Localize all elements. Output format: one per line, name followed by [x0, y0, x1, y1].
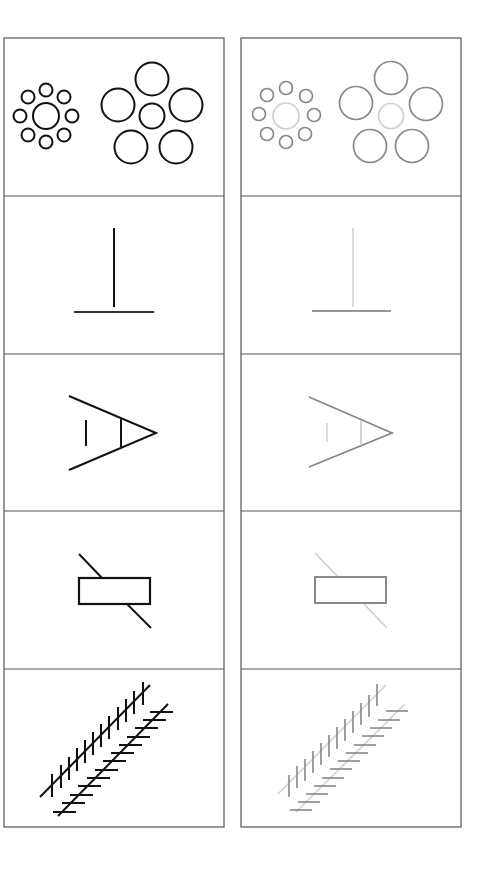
left-column-frame [4, 38, 224, 827]
zollner-original [40, 682, 173, 816]
vertical-horizontal-original [74, 228, 154, 312]
zollner-horizontal-ticks [53, 712, 173, 812]
angle-greyed [309, 397, 392, 467]
vertical-horizontal-greyed [312, 228, 391, 311]
zollner-greyed-vertical-ticks [289, 684, 377, 797]
zollner-greyed [278, 684, 408, 812]
right-column-frame [241, 38, 461, 827]
angle-original [69, 396, 156, 470]
zollner-greyed-horizontal-ticks [290, 711, 408, 810]
poggendorff-original [79, 554, 151, 628]
ebbinghaus-original [14, 63, 203, 164]
ebbinghaus-greyed [253, 62, 443, 163]
illusions-figure [0, 0, 488, 869]
poggendorff-greyed [315, 553, 387, 628]
